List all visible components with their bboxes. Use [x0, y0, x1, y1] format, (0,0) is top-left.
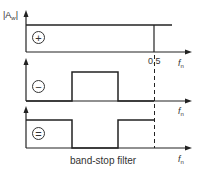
- x-axis-label-1: fn: [178, 58, 184, 71]
- caption: band-stop filter: [70, 155, 136, 166]
- band-stop-filter-diagram: |Aw| 0.5 fn fn fn + − = band-stop filter: [0, 0, 198, 176]
- y-axis-label: |Aw|: [3, 10, 18, 23]
- plus-symbol: +: [32, 31, 45, 44]
- x-axis-label-2: fn: [178, 106, 184, 119]
- x-axis-label-3: fn: [178, 154, 184, 167]
- bandstop-line: [26, 120, 154, 148]
- bandpass-line: [26, 72, 154, 101]
- minus-symbol: −: [32, 80, 45, 93]
- tick-label: 0.5: [148, 56, 161, 66]
- diagram-lines: [0, 0, 198, 176]
- equals-symbol: =: [32, 127, 45, 140]
